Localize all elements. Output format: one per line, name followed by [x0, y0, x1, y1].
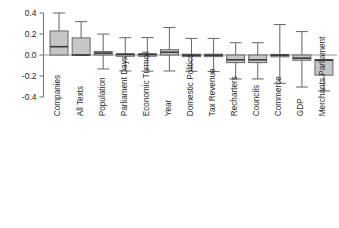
y-axis-tick-label: -0.2	[22, 71, 37, 81]
boxplot-chart: 0.40.20.0-0.2-0.4 CompaniesAll TextsPopu…	[0, 0, 339, 228]
box-whisker-group	[293, 32, 311, 87]
category-label: Recharters	[231, 76, 239, 116]
box-whisker-group	[249, 43, 267, 79]
category-label: GDP	[297, 98, 305, 116]
category-label: Economic Turmoil	[143, 51, 151, 116]
box-rect	[227, 55, 245, 63]
box-whisker-group	[160, 27, 178, 70]
box-rect	[249, 55, 267, 63]
box-whisker-group	[205, 38, 223, 71]
box-whisker-group	[271, 25, 289, 84]
category-label: Councils	[253, 85, 261, 116]
category-label: Commerce	[275, 76, 283, 116]
category-label: Population	[98, 78, 106, 117]
category-label: Companies	[54, 75, 62, 116]
box-rect	[72, 38, 90, 55]
box-whisker-group	[50, 13, 68, 55]
box-rect	[50, 31, 68, 55]
category-label: Merchants Parliament	[319, 37, 327, 117]
category-label: All Texts	[76, 86, 84, 116]
box-whisker-group	[72, 22, 90, 56]
category-label: Parliament Days	[120, 56, 128, 116]
box-whisker-group	[227, 43, 245, 79]
box-whisker-group	[94, 34, 112, 69]
y-axis-tick-label: 0.2	[25, 29, 37, 39]
category-label: Domestic Politics	[187, 54, 195, 116]
y-axis-tick-label: 0.0	[25, 50, 37, 60]
y-axis-tick-label: -0.4	[22, 92, 37, 102]
y-axis-tick-label: 0.4	[25, 8, 37, 18]
category-label: Tax Revenue	[209, 68, 217, 116]
category-label: Year	[165, 100, 173, 117]
